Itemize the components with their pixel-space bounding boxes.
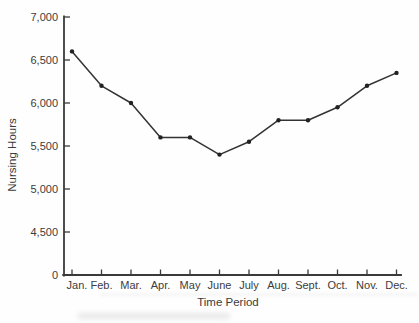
y-tick-label: 4,500 [30, 226, 58, 238]
data-point-marker [158, 135, 162, 139]
x-tick-label: Dec. [385, 279, 408, 291]
x-tick-label: May [180, 279, 201, 291]
data-line [72, 51, 397, 154]
y-tick-label: 0 [52, 269, 58, 281]
data-points [70, 49, 399, 157]
y-tick-label: 5,500 [30, 140, 58, 152]
x-tick-label: Nov. [356, 279, 378, 291]
data-point-marker [306, 118, 310, 122]
y-tick-label: 6,000 [30, 97, 58, 109]
x-tick-label: Feb. [90, 279, 112, 291]
x-tick-label: Apr. [151, 279, 171, 291]
data-point-marker [394, 71, 398, 75]
x-tick-label: June [208, 279, 232, 291]
data-point-marker [335, 105, 339, 109]
data-point-marker [188, 135, 192, 139]
y-axis: 7,0006,5006,0005,5005,0004,5000 [30, 11, 70, 281]
x-tick-label: Mar. [120, 279, 141, 291]
y-tick-label: 5,000 [30, 183, 58, 195]
y-tick-labels: 7,0006,5006,0005,5005,0004,5000 [30, 11, 58, 281]
y-tick-label: 6,500 [30, 54, 58, 66]
data-point-marker [365, 84, 369, 88]
chart-figure: 7,0006,5006,0005,5005,0004,5000 Jan.Feb.… [0, 0, 419, 323]
line-chart-svg: 7,0006,5006,0005,5005,0004,5000 Jan.Feb.… [0, 0, 419, 323]
data-point-marker [70, 49, 74, 53]
x-tick-label: Oct. [327, 279, 347, 291]
y-tick-label: 7,000 [30, 11, 58, 23]
x-axis: Jan.Feb.Mar.Apr.MayJuneJulyAug.Sept.Oct.… [63, 270, 408, 292]
data-point-marker [217, 152, 221, 156]
x-tick-labels: Jan.Feb.Mar.Apr.MayJuneJulyAug.Sept.Oct.… [67, 279, 408, 291]
data-point-marker [129, 101, 133, 105]
x-tick-label: Jan. [67, 279, 88, 291]
data-point-marker [276, 118, 280, 122]
y-axis-title: Nursing Hours [6, 118, 18, 192]
x-axis-title: Time Period [197, 296, 259, 308]
x-tick-label: Aug. [267, 279, 290, 291]
data-point-marker [247, 140, 251, 144]
data-point-marker [99, 84, 103, 88]
x-tick-label: July [239, 279, 259, 291]
x-tick-label: Sept. [295, 279, 321, 291]
